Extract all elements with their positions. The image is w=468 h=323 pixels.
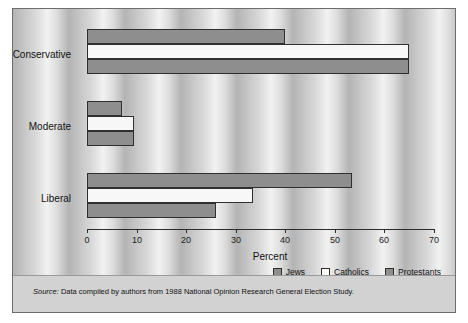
x-tick-70 (434, 229, 435, 233)
bar-moderate-protestants[interactable] (87, 131, 134, 146)
source-label: Source: (33, 287, 59, 296)
x-tick-10 (137, 229, 138, 233)
plot-area: Conservative Moderate Liberal (13, 9, 455, 312)
x-tick-50 (335, 229, 336, 233)
x-tick-30 (236, 229, 237, 233)
bar-conservative-jews[interactable] (87, 29, 285, 44)
bar-liberal-protestants[interactable] (87, 203, 216, 218)
x-tick-label-70: 70 (429, 235, 439, 245)
x-axis-line (87, 229, 435, 230)
x-tick-40 (285, 229, 286, 233)
x-tick-label-10: 10 (132, 235, 142, 245)
x-tick-0 (87, 229, 88, 233)
bar-moderate-catholics[interactable] (87, 116, 134, 131)
bar-liberal-jews[interactable] (87, 173, 352, 188)
source-text: Data compiled by authors from 1988 Natio… (59, 287, 354, 296)
x-tick-label-60: 60 (379, 235, 389, 245)
x-tick-label-20: 20 (181, 235, 191, 245)
bar-conservative-catholics[interactable] (87, 44, 409, 59)
source-band: Source: Data compiled by authors from 19… (13, 275, 455, 312)
category-label-moderate: Moderate (29, 121, 71, 132)
source-note: Source: Data compiled by authors from 19… (33, 287, 354, 296)
bar-conservative-protestants[interactable] (87, 59, 409, 74)
bar-moderate-jews[interactable] (87, 101, 122, 116)
x-axis-title: Percent (13, 251, 455, 262)
bar-liberal-catholics[interactable] (87, 188, 253, 203)
category-label-conservative: Conservative (13, 49, 71, 60)
x-tick-label-30: 30 (231, 235, 241, 245)
chart-figure: Conservative Moderate Liberal (12, 8, 456, 313)
x-tick-20 (186, 229, 187, 233)
x-tick-60 (384, 229, 385, 233)
x-tick-label-40: 40 (280, 235, 290, 245)
x-tick-label-0: 0 (84, 235, 89, 245)
category-label-liberal: Liberal (41, 193, 71, 204)
x-axis-title-text: Percent (253, 251, 287, 262)
x-tick-label-50: 50 (330, 235, 340, 245)
